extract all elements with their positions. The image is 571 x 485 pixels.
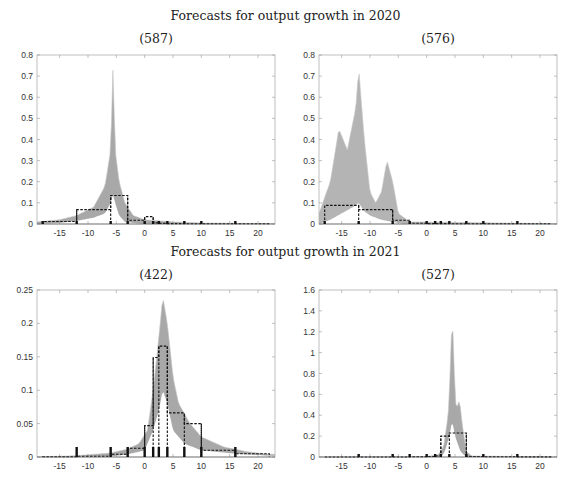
rug-marker xyxy=(234,221,236,224)
rug-marker xyxy=(75,447,77,457)
rug-marker xyxy=(440,221,442,224)
rug-marker xyxy=(357,221,359,224)
y-tick-label: 0.1 xyxy=(21,198,33,208)
y-tick-label: 0 xyxy=(310,452,315,462)
rug-marker xyxy=(200,447,202,457)
rug-marker xyxy=(183,447,185,457)
x-tick-label: 20 xyxy=(535,461,545,471)
axes-box xyxy=(37,55,275,224)
y-tick-label: 0.7 xyxy=(303,71,315,81)
x-tick-label: -15 xyxy=(336,461,349,471)
x-tick-label: 15 xyxy=(225,228,235,238)
x-tick-label: 5 xyxy=(171,461,176,471)
y-tick-label: 1.4 xyxy=(303,306,315,316)
y-tick-label: 0.3 xyxy=(21,156,33,166)
rug-marker xyxy=(234,447,236,457)
panel-2020-576: -15-10-50510152000.10.20.30.40.50.60.70.… xyxy=(303,50,557,238)
y-tick-label: 0.05 xyxy=(16,419,33,429)
y-tick-label: 0.4 xyxy=(303,410,315,420)
y-tick-label: 0.8 xyxy=(21,50,33,60)
x-tick-label: 15 xyxy=(225,461,235,471)
x-tick-label: 20 xyxy=(535,228,545,238)
rug-marker xyxy=(425,221,427,224)
y-tick-label: 0.1 xyxy=(303,198,315,208)
x-tick-label: 0 xyxy=(424,461,429,471)
y-tick-label: 0.3 xyxy=(303,156,315,166)
figure-canvas: -15-10-50510152000.10.20.30.40.50.60.70.… xyxy=(0,0,571,485)
panel-2021-527: -15-10-50510152000.20.40.60.811.21.41.6 xyxy=(303,285,557,471)
density-upper-edge xyxy=(319,331,557,457)
x-tick-label: -10 xyxy=(364,228,377,238)
rug-marker xyxy=(408,221,410,224)
rug-marker xyxy=(391,454,393,457)
rug-marker xyxy=(516,454,518,457)
density-band xyxy=(319,331,557,457)
rug-marker xyxy=(143,221,145,224)
x-tick-label: -15 xyxy=(336,228,349,238)
rug-marker xyxy=(425,454,427,457)
x-tick-label: 15 xyxy=(507,461,517,471)
y-tick-label: 0.4 xyxy=(21,135,33,145)
rug-marker xyxy=(126,221,128,224)
rug-marker xyxy=(408,454,410,457)
y-tick-label: 0.5 xyxy=(21,113,33,123)
rug-marker xyxy=(75,221,77,224)
rug-marker xyxy=(158,447,160,457)
y-tick-label: 1.2 xyxy=(303,327,315,337)
x-tick-label: 5 xyxy=(453,461,458,471)
rug-marker xyxy=(152,447,154,457)
x-tick-label: 0 xyxy=(142,228,147,238)
x-tick-label: 10 xyxy=(479,228,489,238)
x-tick-label: -5 xyxy=(113,228,121,238)
x-tick-label: 5 xyxy=(171,228,176,238)
y-tick-label: 0.1 xyxy=(21,385,33,395)
y-tick-label: 0.2 xyxy=(21,318,33,328)
x-tick-label: -5 xyxy=(395,461,403,471)
axes-box xyxy=(319,290,557,457)
y-tick-label: 0.2 xyxy=(303,177,315,187)
x-tick-label: 10 xyxy=(197,461,207,471)
x-tick-label: 10 xyxy=(197,228,207,238)
rug-marker xyxy=(41,221,43,224)
rug-marker xyxy=(448,221,450,224)
x-tick-label: -10 xyxy=(364,461,377,471)
x-tick-label: -5 xyxy=(395,228,403,238)
y-tick-label: 0.25 xyxy=(16,285,33,295)
rug-marker xyxy=(109,221,111,224)
rug-marker xyxy=(482,221,484,224)
y-tick-label: 1.6 xyxy=(303,285,315,295)
rug-marker xyxy=(440,454,442,457)
rug-marker xyxy=(200,221,202,224)
rug-marker xyxy=(143,447,145,457)
density-band xyxy=(37,70,275,224)
y-tick-label: 0 xyxy=(310,219,315,229)
y-tick-label: 0.2 xyxy=(303,431,315,441)
density-upper-edge xyxy=(37,70,275,223)
rug-marker xyxy=(166,447,168,457)
x-tick-label: -5 xyxy=(113,461,121,471)
y-tick-label: 1 xyxy=(310,348,315,358)
x-tick-label: -10 xyxy=(82,461,95,471)
x-tick-label: 15 xyxy=(507,228,517,238)
panel-2020-587: -15-10-50510152000.10.20.30.40.50.60.70.… xyxy=(21,50,275,238)
rug-marker xyxy=(482,454,484,457)
rug-marker xyxy=(434,221,436,224)
x-tick-label: 10 xyxy=(479,461,489,471)
rug-marker xyxy=(357,454,359,457)
x-tick-label: -10 xyxy=(82,228,95,238)
y-tick-label: 0.8 xyxy=(303,369,315,379)
x-tick-label: 5 xyxy=(453,228,458,238)
x-tick-label: 20 xyxy=(253,228,263,238)
x-tick-label: 20 xyxy=(253,461,263,471)
y-tick-label: 0.6 xyxy=(303,389,315,399)
rug-marker xyxy=(152,221,154,224)
rug-marker xyxy=(183,221,185,224)
rug-marker xyxy=(126,447,128,457)
rug-marker xyxy=(109,447,111,457)
rug-marker xyxy=(516,221,518,224)
y-tick-label: 0.4 xyxy=(303,135,315,145)
x-tick-label: 0 xyxy=(142,461,147,471)
rug-marker xyxy=(448,454,450,457)
histogram-step xyxy=(325,433,552,457)
y-tick-label: 0.6 xyxy=(303,92,315,102)
